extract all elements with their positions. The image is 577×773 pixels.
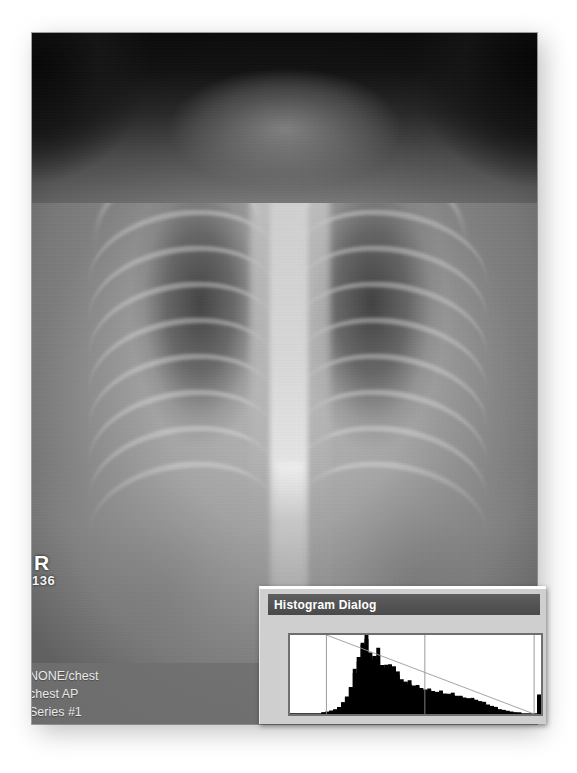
- histogram-bar: [470, 698, 474, 714]
- histogram-bar: [466, 699, 470, 714]
- histogram-bar: [321, 712, 325, 714]
- histogram-bar: [431, 693, 435, 714]
- histogram-dialog[interactable]: Histogram Dialog: [259, 586, 546, 724]
- histogram-bar: [341, 702, 345, 714]
- histogram-bar: [372, 656, 376, 714]
- histogram-bar: [447, 694, 451, 714]
- histogram-bar: [502, 710, 506, 714]
- study-info-line-description: chest AP: [32, 685, 266, 703]
- histogram-bar: [353, 669, 357, 714]
- histogram-bar: [439, 691, 443, 714]
- histogram-bar: [474, 701, 478, 714]
- histogram-bar: [412, 687, 416, 714]
- histogram-bar: [388, 669, 392, 714]
- histogram-bar: [419, 691, 423, 714]
- histogram-bar: [517, 713, 521, 714]
- study-info-line-institution-bodypart: NONE/chest: [32, 667, 266, 685]
- histogram-bar: [486, 705, 490, 714]
- histogram-bar: [478, 701, 482, 714]
- histogram-dialog-title: Histogram Dialog: [268, 598, 377, 612]
- histogram-bar: [357, 661, 361, 714]
- histogram-bar: [443, 695, 447, 714]
- histogram-bar: [537, 694, 541, 714]
- histogram-bar: [435, 692, 439, 714]
- histogram-bar: [514, 712, 518, 714]
- histogram-bar: [329, 711, 333, 714]
- histogram-bar: [392, 667, 396, 714]
- histogram-plot-panel[interactable]: [288, 633, 543, 716]
- histogram-bar: [416, 685, 420, 714]
- histogram-bar: [498, 709, 502, 714]
- histogram-bar: [349, 687, 353, 714]
- histogram-bar: [368, 655, 372, 714]
- study-info-line-series: Series #1: [32, 703, 266, 721]
- histogram-bar: [427, 689, 431, 714]
- histogram-bar: [490, 706, 494, 714]
- histogram-bar: [463, 699, 467, 714]
- histogram-bar: [506, 711, 510, 714]
- histogram-bar: [459, 696, 463, 714]
- histogram-dialog-titlebar[interactable]: Histogram Dialog: [268, 594, 540, 615]
- histogram-bar: [384, 665, 388, 714]
- histogram-bar: [404, 682, 408, 714]
- histogram-bar: [380, 666, 384, 714]
- histogram-bar: [337, 707, 341, 714]
- histogram-bar: [482, 702, 486, 714]
- histogram-bar: [400, 682, 404, 714]
- histogram-bar: [325, 712, 329, 714]
- histogram-plot[interactable]: [290, 635, 541, 714]
- histogram-bar: [408, 680, 412, 714]
- histogram-bar: [455, 697, 459, 714]
- histogram-bar: [451, 693, 455, 714]
- marker-number-label: 136: [32, 574, 55, 587]
- histogram-bar: [510, 712, 514, 714]
- histogram-bar: [361, 643, 365, 714]
- study-info-overlay: NONE/chest chest AP Series #1: [32, 663, 266, 724]
- histogram-bar: [494, 707, 498, 714]
- histogram-bar: [376, 656, 380, 714]
- histogram-bar: [333, 710, 337, 714]
- histogram-bar: [396, 671, 400, 714]
- laterality-marker-r: R: [34, 552, 50, 573]
- histogram-bar: [345, 698, 349, 714]
- histogram-bar: [365, 635, 369, 714]
